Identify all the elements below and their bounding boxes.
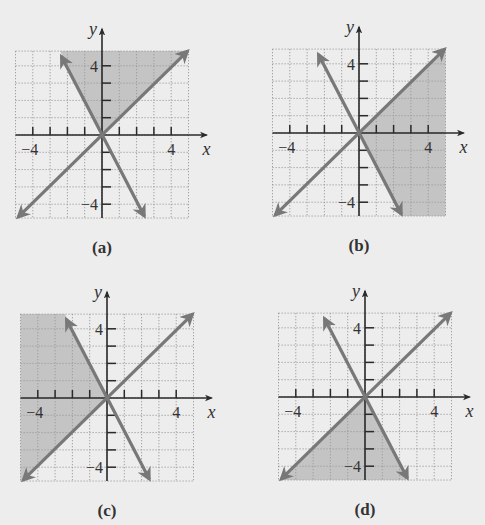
y-tick-label-4: 4 — [90, 58, 98, 75]
y-tick-label-neg4: −4 — [344, 458, 361, 475]
graph-panel-d: −444−4xy(d) — [279, 281, 474, 519]
x-axis-label: x — [202, 139, 211, 159]
x-tick-label-4: 4 — [430, 403, 438, 420]
y-tick-label-4: 4 — [95, 321, 103, 338]
graph-panel-b: −444−4xy(b) — [273, 17, 468, 255]
y-axis-label: y — [344, 17, 354, 37]
graph-panel-a: −444−4xy(a) — [16, 19, 211, 257]
y-tick-label-neg4: −4 — [338, 194, 355, 211]
x-tick-label-neg4: −4 — [26, 404, 43, 421]
y-axis-label: y — [87, 19, 97, 39]
graph-panel-c: −444−4xy(c) — [21, 282, 216, 520]
x-tick-label-neg4: −4 — [278, 139, 295, 156]
x-axis-label: x — [465, 401, 474, 421]
x-tick-label-4: 4 — [172, 404, 180, 421]
panel-caption: (a) — [92, 238, 112, 257]
x-tick-label-neg4: −4 — [284, 403, 301, 420]
x-tick-label-4: 4 — [424, 139, 432, 156]
y-tick-label-neg4: −4 — [81, 196, 98, 213]
x-axis-label: x — [207, 402, 216, 422]
x-tick-label-4: 4 — [167, 141, 175, 158]
x-tick-label-neg4: −4 — [21, 141, 38, 158]
panel-caption: (b) — [349, 236, 370, 255]
y-tick-label-neg4: −4 — [86, 459, 103, 476]
y-axis-label: y — [92, 282, 102, 302]
y-tick-label-4: 4 — [353, 320, 361, 337]
panel-caption: (d) — [355, 500, 376, 519]
y-axis-label: y — [350, 281, 360, 301]
x-axis-label: x — [459, 137, 468, 157]
y-tick-label-4: 4 — [347, 56, 355, 73]
figure-canvas: −444−4xy(a) −444−4xy(b) −444−4xy(c) −444… — [0, 0, 485, 525]
panel-caption: (c) — [98, 501, 117, 520]
